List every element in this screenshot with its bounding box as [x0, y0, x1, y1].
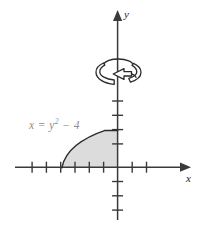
equation-exponent: 2: [55, 117, 59, 126]
figure-container: x y x = y2 − 4: [0, 0, 209, 231]
equation-equals: =: [38, 119, 46, 131]
equation-remainder: − 4: [62, 119, 80, 131]
equation-label: x = y2 − 4: [29, 120, 80, 132]
rotation-arrow-icon: [96, 59, 141, 84]
coordinate-plane-figure: x y: [0, 0, 209, 231]
y-axis-label: y: [123, 8, 129, 20]
y-axis-arrowhead-icon: [113, 10, 122, 21]
x-axis-label: x: [185, 172, 191, 184]
equation-lhs: x: [29, 119, 35, 131]
x-axis-arrowhead-icon: [180, 163, 191, 172]
